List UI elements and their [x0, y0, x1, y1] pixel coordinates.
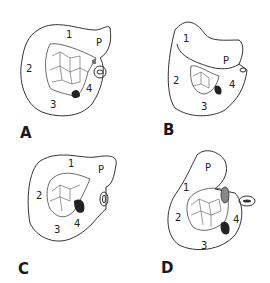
label-3: 3 [201, 240, 207, 251]
label-p: P [98, 164, 104, 175]
label-2: 2 [36, 190, 42, 201]
hatched-lesion-icon [214, 85, 221, 94]
label-4: 4 [233, 214, 239, 225]
label-1: 1 [68, 158, 74, 169]
panel-letter-c: C [18, 260, 29, 278]
organ-diagram-d: P 1 2 3 4 [135, 141, 270, 282]
organ-diagram-a: 1 P 2 3 4 [0, 0, 135, 141]
panel-b: 1 P 2 3 4 B [135, 0, 270, 141]
hatched-lesion-icon [221, 222, 230, 235]
label-1: 1 [183, 33, 189, 44]
label-p: P [205, 162, 211, 173]
label-2: 2 [175, 212, 181, 223]
label-4: 4 [74, 218, 80, 229]
label-4: 4 [86, 83, 92, 94]
label-2: 2 [173, 75, 179, 86]
label-2: 2 [26, 63, 32, 74]
label-3: 3 [50, 99, 56, 110]
panel-letter-a: A [20, 124, 32, 142]
label-p: P [96, 37, 102, 48]
panel-letter-b: B [163, 121, 174, 139]
label-4: 4 [229, 79, 235, 90]
panel-c: 1 P 2 3 4 C [0, 141, 135, 282]
panel-letter-d: D [161, 259, 173, 277]
panel-d: P 1 2 3 4 D [135, 141, 270, 282]
label-p: P [223, 55, 229, 66]
panel-a: 1 P 2 3 4 A [0, 0, 135, 141]
label-1: 1 [66, 29, 72, 40]
organ-diagram-b: 1 P 2 3 4 [135, 0, 270, 141]
label-3: 3 [54, 224, 60, 235]
hatched-lesion-icon [74, 199, 84, 212]
hatched-lesion-icon [72, 90, 80, 98]
label-3: 3 [201, 101, 207, 112]
label-1: 1 [183, 182, 189, 193]
